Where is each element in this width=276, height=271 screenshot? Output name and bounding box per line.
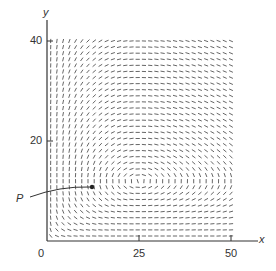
slope-segment bbox=[161, 65, 165, 66]
slope-segment bbox=[75, 39, 77, 43]
slope-segment bbox=[223, 71, 227, 73]
slope-segment bbox=[186, 126, 190, 128]
slope-segment bbox=[198, 53, 202, 54]
slope-segment bbox=[223, 65, 227, 67]
slope-segment bbox=[63, 149, 64, 153]
slope-segment bbox=[154, 156, 158, 157]
slope-segment bbox=[161, 199, 165, 200]
slope-segment bbox=[75, 106, 77, 110]
slope-segment bbox=[50, 228, 51, 232]
slope-segment bbox=[217, 101, 221, 103]
slope-segment bbox=[192, 59, 196, 60]
slope-segment bbox=[223, 149, 226, 152]
slope-segment bbox=[179, 126, 183, 127]
slope-segment bbox=[186, 120, 190, 122]
slope-segment bbox=[117, 59, 121, 60]
slope-segment bbox=[92, 211, 96, 213]
slope-segment bbox=[75, 70, 77, 74]
slope-segment bbox=[217, 46, 221, 48]
slope-segment bbox=[210, 65, 214, 67]
slope-segment bbox=[69, 39, 71, 43]
slope-segment bbox=[198, 217, 202, 218]
slope-segment bbox=[61, 236, 65, 237]
slope-segment bbox=[154, 96, 158, 97]
slope-segment bbox=[179, 107, 183, 108]
slope-segment bbox=[117, 144, 121, 146]
slope-segment bbox=[87, 40, 90, 43]
slope-segment bbox=[210, 89, 214, 91]
slope-segment bbox=[192, 107, 196, 109]
slope-segment bbox=[148, 174, 152, 176]
slope-segment bbox=[68, 210, 70, 214]
slope-segment bbox=[161, 71, 165, 72]
slope-segment bbox=[111, 59, 115, 60]
slope-segment bbox=[63, 204, 64, 208]
slope-segment bbox=[69, 197, 70, 201]
slope-segment bbox=[63, 88, 64, 92]
slope-segment bbox=[87, 46, 90, 49]
slope-segment bbox=[81, 52, 84, 55]
slope-segment bbox=[192, 89, 196, 90]
slope-segment bbox=[229, 119, 233, 121]
slope-segment bbox=[186, 47, 190, 48]
slope-segment bbox=[67, 229, 71, 231]
slope-segment bbox=[223, 205, 227, 207]
slope-segment bbox=[179, 144, 183, 146]
slope-segment bbox=[161, 120, 165, 121]
slope-segment bbox=[99, 131, 102, 134]
slope-segment bbox=[99, 52, 103, 54]
slope-segment bbox=[75, 82, 77, 86]
slope-segment bbox=[167, 95, 171, 96]
slope-segment bbox=[63, 100, 64, 104]
slope-segment bbox=[57, 69, 58, 73]
slope-segment bbox=[192, 192, 195, 195]
slope-segment bbox=[99, 161, 101, 165]
slope-segment bbox=[223, 95, 227, 97]
slope-segment bbox=[105, 89, 109, 91]
slope-segment bbox=[87, 52, 90, 55]
slope-segment bbox=[87, 125, 89, 129]
slope-segment bbox=[167, 120, 171, 121]
slope-segment bbox=[186, 65, 190, 66]
slope-segment bbox=[93, 155, 95, 159]
slope-segment bbox=[186, 101, 190, 102]
slope-segment bbox=[142, 163, 146, 164]
slope-segment bbox=[93, 58, 96, 61]
slope-segment bbox=[210, 59, 214, 61]
slope-segment bbox=[192, 217, 196, 218]
slope-segment bbox=[87, 149, 89, 153]
slope-segment bbox=[204, 40, 208, 41]
slope-segment bbox=[81, 118, 83, 122]
slope-segment bbox=[167, 77, 171, 78]
slope-segment bbox=[69, 51, 71, 55]
slope-segment bbox=[179, 83, 183, 84]
slope-segment bbox=[69, 112, 70, 116]
slope-segment bbox=[111, 119, 115, 121]
slope-segment bbox=[81, 88, 83, 92]
slope-segment bbox=[117, 114, 121, 115]
slope-segment bbox=[86, 230, 90, 231]
slope-segment bbox=[148, 132, 152, 133]
slope-segment bbox=[179, 114, 183, 115]
slope-segment bbox=[204, 198, 208, 200]
slope-segment bbox=[229, 52, 233, 54]
slope-segment bbox=[198, 83, 202, 85]
slope-segment bbox=[69, 130, 70, 134]
slope-segment bbox=[88, 173, 89, 177]
slope-segment bbox=[205, 161, 208, 164]
slope-segment bbox=[204, 150, 207, 152]
slope-segment bbox=[217, 71, 221, 73]
slope-segment bbox=[223, 52, 227, 54]
slope-segment bbox=[92, 223, 96, 224]
slope-segment bbox=[93, 76, 96, 79]
slope-segment bbox=[223, 155, 226, 158]
slope-segment bbox=[179, 53, 183, 54]
slope-segment bbox=[161, 150, 165, 151]
slope-segment bbox=[63, 45, 64, 49]
slope-segment bbox=[57, 100, 58, 104]
slope-segment bbox=[173, 53, 177, 54]
slope-segment bbox=[186, 167, 189, 170]
slope-segment bbox=[75, 137, 76, 141]
slope-segment bbox=[204, 65, 208, 66]
slope-segment bbox=[229, 125, 233, 127]
